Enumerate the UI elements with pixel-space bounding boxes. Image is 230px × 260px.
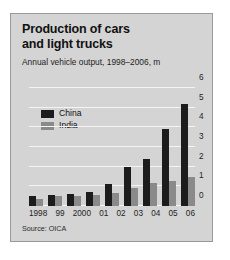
bar-group-99 [48, 88, 62, 206]
x-tick-label-1998: 1998 [29, 209, 47, 218]
bar-india-05 [169, 181, 176, 206]
bar-group-01 [86, 88, 100, 206]
bar-group-04 [143, 88, 157, 206]
y-tick-label-1: 1 [199, 171, 204, 180]
bar-india-99 [55, 196, 62, 206]
x-axis-ticks: 1998992000010203040506 [29, 209, 195, 218]
page-title-line-2: and light trucks [22, 37, 202, 52]
bar-india-01 [93, 195, 100, 206]
y-tick-label-3: 3 [199, 132, 204, 141]
plot-area: 0123456 [29, 88, 195, 206]
y-tick-label-5: 5 [199, 93, 204, 102]
bar-china-03 [124, 167, 131, 206]
x-tick-label-2000: 2000 [73, 209, 91, 218]
bar-india-04 [150, 183, 157, 206]
bar-india-06 [188, 177, 195, 207]
bar-group-03 [124, 88, 138, 206]
bar-group-2000 [67, 88, 81, 206]
x-tick-label-04: 04 [151, 209, 160, 218]
bar-china-2000 [67, 194, 74, 206]
bar-group-06 [181, 88, 195, 206]
chart-source: Source: OICA [22, 224, 66, 233]
bar-india-1998 [36, 199, 43, 206]
bar-india-02 [112, 193, 119, 206]
chart-subtitle: Annual vehicle output, 1998–2006, m [22, 57, 202, 67]
chart-card: Production of cars and light trucks Annu… [10, 13, 213, 242]
bar-group-02 [105, 88, 119, 206]
bar-china-04 [143, 159, 150, 206]
x-tick-label-05: 05 [169, 209, 178, 218]
y-tick-label-4: 4 [199, 112, 204, 121]
bar-group-1998 [29, 88, 43, 206]
bar-group-05 [162, 88, 176, 206]
bar-groups [29, 88, 195, 206]
page-title-line-1: Production of cars [22, 22, 202, 37]
y-tick-label-0: 0 [199, 191, 204, 200]
x-tick-label-06: 06 [186, 209, 195, 218]
bar-china-99 [48, 195, 55, 206]
bar-china-05 [162, 129, 169, 206]
y-tick-label-6: 6 [199, 73, 204, 82]
y-tick-label-2: 2 [199, 152, 204, 161]
x-tick-label-03: 03 [134, 209, 143, 218]
bar-china-1998 [29, 196, 36, 206]
x-tick-label-99: 99 [55, 209, 64, 218]
bar-india-03 [131, 188, 138, 206]
x-tick-label-01: 01 [99, 209, 108, 218]
bar-china-01 [86, 192, 93, 206]
bar-china-06 [181, 104, 188, 206]
chart-header: Production of cars and light trucks Annu… [22, 22, 202, 67]
bar-india-2000 [74, 196, 81, 206]
bar-china-02 [105, 184, 112, 206]
x-tick-label-02: 02 [117, 209, 126, 218]
